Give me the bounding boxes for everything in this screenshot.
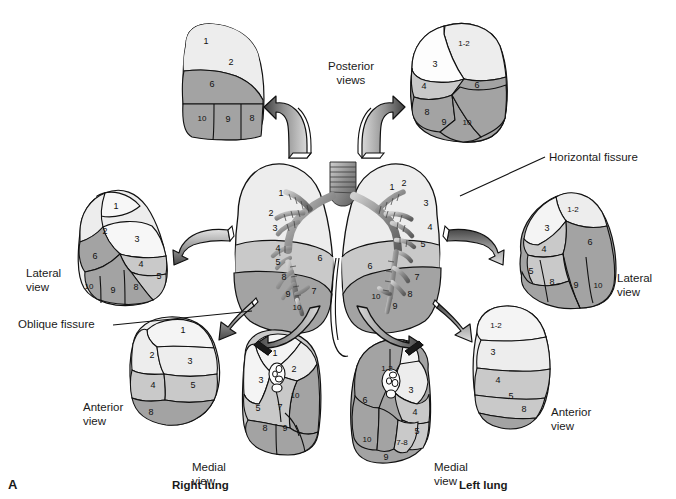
arrow-right-lateral <box>173 226 234 265</box>
label-horizontal-fissure: Horizontal fissure <box>549 151 638 164</box>
label-right-anterior-view: Anterior view <box>83 372 141 442</box>
view-right-medial <box>242 330 320 455</box>
view-left-lateral <box>520 193 616 309</box>
view-right-posterior <box>182 24 264 140</box>
label-oblique-fissure: Oblique fissure <box>18 318 95 331</box>
arrow-right-posterior <box>264 96 311 158</box>
segment-8-upper <box>527 254 569 286</box>
label-right-lateral-view: Lateral view <box>26 238 82 308</box>
label-posterior-views: Posterior views <box>316 31 386 101</box>
segment-3 <box>157 346 217 376</box>
leader-horizontal-fissure <box>460 157 545 196</box>
segment-1-2 <box>477 306 546 341</box>
view-left-medial <box>351 339 431 463</box>
label-left-lateral-view: Lateral view <box>617 243 673 313</box>
view-left-posterior <box>411 23 508 142</box>
panel-letter: A <box>8 478 17 491</box>
arrow-left-lateral <box>443 226 504 265</box>
view-left-anterior <box>473 306 550 429</box>
segment-4 <box>475 368 550 399</box>
label-right-lung: Right lung <box>172 479 229 492</box>
segment-5 <box>164 374 217 402</box>
arrow-left-posterior <box>358 96 405 158</box>
view-right-anterior <box>130 317 220 425</box>
arrow-left-anterior <box>433 300 472 342</box>
view-central-lungs <box>234 162 441 356</box>
label-left-lung: Left lung <box>459 479 508 492</box>
segment-1 <box>147 319 214 348</box>
mediastinal-border-right <box>335 258 339 340</box>
view-right-lateral <box>78 190 167 305</box>
segment-3 <box>477 337 550 371</box>
label-left-anterior-view: Anterior view <box>551 377 609 447</box>
segment-8 <box>132 398 214 425</box>
basal-group <box>183 104 263 140</box>
